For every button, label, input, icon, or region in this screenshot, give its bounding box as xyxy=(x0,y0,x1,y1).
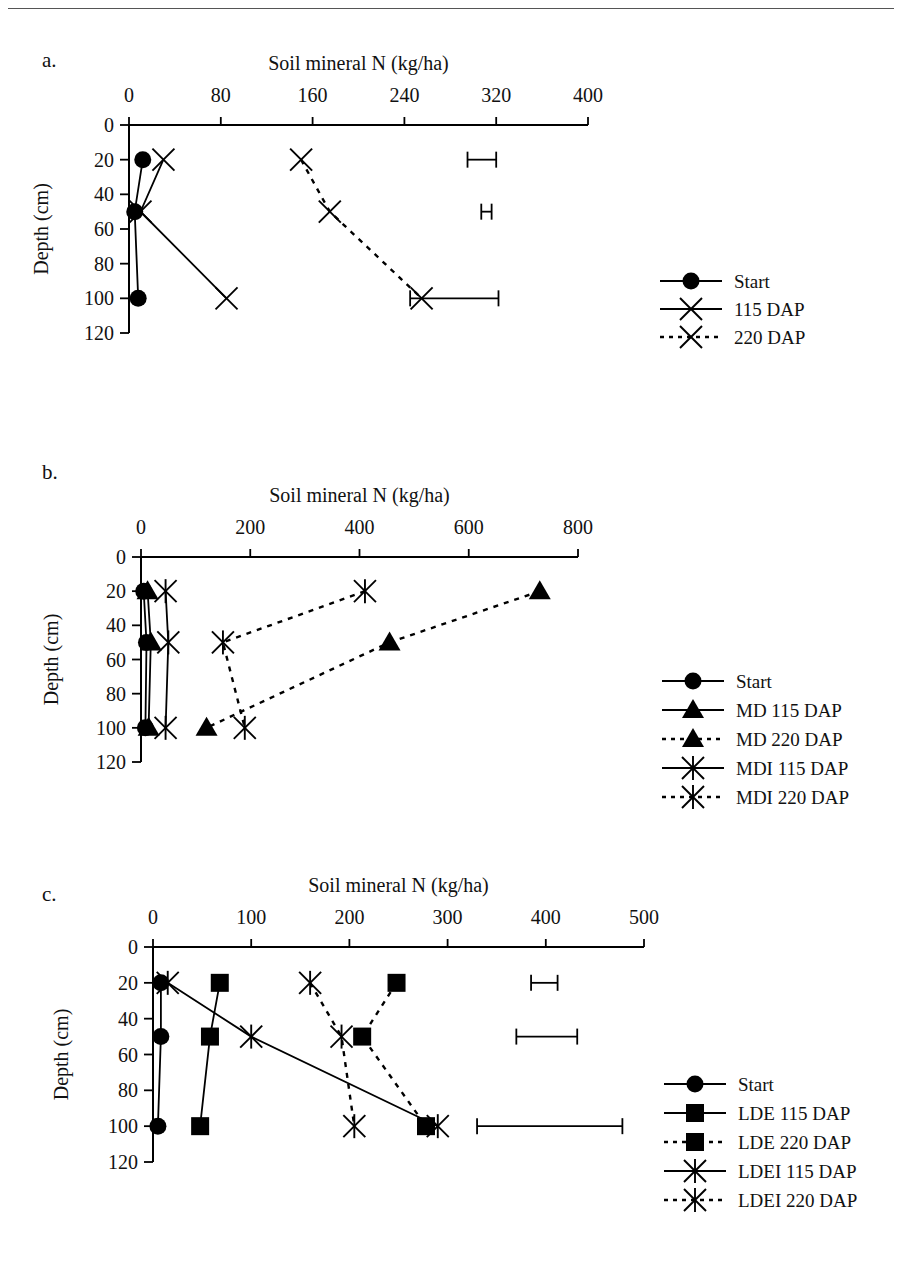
legend-item-ldei-115-dap[interactable]: LDEI 115 DAP xyxy=(664,1159,857,1183)
legend-item-md-220-dap[interactable]: MD 220 DAP xyxy=(662,728,843,750)
legend-item-lde-220-dap[interactable]: LDE 220 DAP xyxy=(664,1132,851,1153)
y-tick-label: 20 xyxy=(106,580,126,602)
data-point xyxy=(353,1028,371,1046)
legend-label: 220 DAP xyxy=(734,327,805,348)
legend-label: MD 115 DAP xyxy=(736,700,842,721)
legend-item-md-115-dap[interactable]: MD 115 DAP xyxy=(662,699,842,721)
y-tick-label: 120 xyxy=(108,1151,138,1173)
x-tick-label: 100 xyxy=(236,906,266,928)
panel-c-chart: Soil mineral N (kg/ha)010020030040050002… xyxy=(0,862,902,1281)
x-tick-label: 80 xyxy=(211,84,231,106)
y-tick-label: 80 xyxy=(118,1079,138,1101)
legend-item-115-dap[interactable]: 115 DAP xyxy=(660,298,805,320)
x-axis-title: Soil mineral N (kg/ha) xyxy=(269,484,450,507)
data-point xyxy=(196,717,218,736)
series-markers-md-220-dap xyxy=(196,580,551,736)
series-markers-ldei-220-dap xyxy=(299,971,365,1138)
data-point xyxy=(354,579,376,603)
panel-a-chart: Soil mineral N (kg/ha)080160240320400020… xyxy=(0,30,902,450)
data-point xyxy=(234,716,256,740)
legend-marker xyxy=(682,699,704,718)
data-point xyxy=(211,974,229,992)
y-tick-label: 60 xyxy=(106,649,126,671)
legend-label: Start xyxy=(734,271,771,292)
data-point xyxy=(155,716,177,740)
error-bar xyxy=(477,1118,622,1134)
y-tick-label: 40 xyxy=(118,1008,138,1030)
y-tick-label: 120 xyxy=(96,751,126,773)
panel-a: a. Soil mineral N (kg/ha)080160240320400… xyxy=(0,30,902,450)
x-tick-label: 400 xyxy=(573,84,603,106)
header-rule xyxy=(8,8,894,9)
legend-label: Start xyxy=(738,1074,775,1095)
y-tick-label: 40 xyxy=(106,614,126,636)
y-tick-label: 40 xyxy=(94,183,114,205)
series-line-md-115-dap xyxy=(148,591,151,728)
x-tick-label: 240 xyxy=(389,84,419,106)
y-tick-label: 80 xyxy=(94,253,114,275)
legend-item-mdi-115-dap[interactable]: MDI 115 DAP xyxy=(662,756,848,780)
x-tick-label: 400 xyxy=(531,906,561,928)
series-line-start xyxy=(144,591,147,728)
legend-label: LDE 115 DAP xyxy=(738,1103,850,1124)
y-tick-label: 0 xyxy=(116,546,126,568)
legend-marker xyxy=(686,1133,704,1151)
x-axis-title: Soil mineral N (kg/ha) xyxy=(268,52,449,75)
legend-item-220-dap[interactable]: 220 DAP xyxy=(660,326,805,348)
error-bar xyxy=(516,1029,577,1045)
y-tick-label: 80 xyxy=(106,683,126,705)
y-axis-title: Depth (cm) xyxy=(30,183,53,275)
data-point xyxy=(134,151,151,168)
legend-item-lde-115-dap[interactable]: LDE 115 DAP xyxy=(664,1103,850,1124)
data-point xyxy=(343,1114,365,1138)
legend-label: 115 DAP xyxy=(734,299,805,320)
series-line-ldei-220-dap xyxy=(310,983,354,1126)
series-markers-220-dap xyxy=(290,149,432,310)
data-point xyxy=(299,971,321,995)
series-line-start xyxy=(135,160,143,299)
y-tick-label: 100 xyxy=(84,287,114,309)
error-bar xyxy=(468,152,497,168)
data-point xyxy=(152,1028,169,1045)
data-point xyxy=(240,1025,262,1049)
legend-label: LDEI 115 DAP xyxy=(738,1161,857,1182)
x-tick-label: 200 xyxy=(235,516,265,538)
legend-label: Start xyxy=(736,671,773,692)
series-line-mdi-220-dap xyxy=(223,591,365,728)
legend-marker xyxy=(686,1104,704,1122)
legend-item-mdi-220-dap[interactable]: MDI 220 DAP xyxy=(662,785,849,809)
y-tick-label: 100 xyxy=(96,717,126,739)
y-tick-label: 0 xyxy=(104,114,114,136)
series-markers-ldei-115-dap xyxy=(157,971,449,1138)
series-markers-lde-220-dap xyxy=(353,974,435,1135)
data-point xyxy=(130,290,147,307)
data-point xyxy=(157,630,179,654)
legend-item-start[interactable]: Start xyxy=(660,271,771,292)
series-line-start xyxy=(158,983,161,1126)
legend-item-start[interactable]: Start xyxy=(664,1074,775,1095)
series-line-115-dap xyxy=(141,160,227,299)
x-tick-label: 300 xyxy=(433,906,463,928)
y-axis-title: Depth (cm) xyxy=(50,1009,73,1101)
data-point xyxy=(201,1028,219,1046)
legend-item-start[interactable]: Start xyxy=(662,671,773,692)
y-tick-label: 60 xyxy=(94,218,114,240)
data-point xyxy=(319,201,341,223)
series-line-md-220-dap xyxy=(207,591,540,728)
x-tick-label: 0 xyxy=(148,906,158,928)
legend-marker xyxy=(682,728,704,747)
x-tick-label: 500 xyxy=(629,906,659,928)
data-point xyxy=(152,149,174,171)
data-point xyxy=(290,149,312,171)
data-point xyxy=(149,1118,166,1135)
x-tick-label: 0 xyxy=(136,516,146,538)
data-point xyxy=(331,1025,353,1049)
panel-b: b. Soil mineral N (kg/ha)020040060080002… xyxy=(0,452,902,872)
data-point xyxy=(379,631,401,650)
data-point xyxy=(212,630,234,654)
legend-marker xyxy=(687,1076,704,1093)
error-bar xyxy=(531,975,558,991)
y-tick-label: 20 xyxy=(118,972,138,994)
y-tick-label: 0 xyxy=(128,936,138,958)
legend-item-ldei-220-dap[interactable]: LDEI 220 DAP xyxy=(664,1188,857,1212)
